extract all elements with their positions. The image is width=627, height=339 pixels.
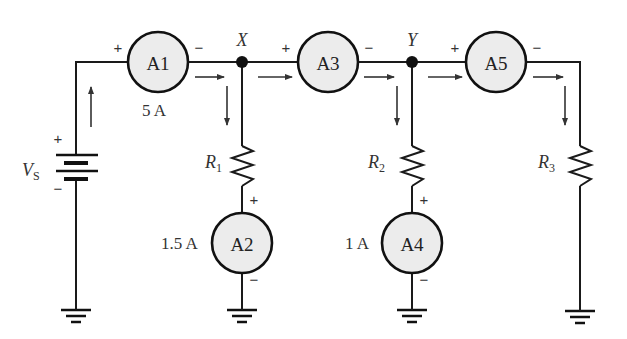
- circuit-diagram: + − VS R1 R2 R3 X: [0, 0, 627, 339]
- resistor-r2: R2: [367, 146, 423, 186]
- svg-text:A2: A2: [230, 234, 253, 255]
- ammeter-a2: A2 + − 1.5 A: [161, 191, 272, 288]
- wires: [76, 62, 580, 302]
- ammeter-a1: A1 + − 5 A: [114, 32, 204, 120]
- svg-text:+: +: [114, 39, 123, 56]
- node-y-label: Y: [407, 30, 419, 50]
- svg-text:R2: R2: [367, 152, 385, 175]
- voltage-source: + − VS: [22, 130, 98, 197]
- ground-icon: [565, 302, 595, 323]
- source-plus: +: [54, 130, 63, 147]
- source-minus: −: [54, 180, 63, 197]
- svg-text:R3: R3: [537, 152, 555, 175]
- svg-text:−: −: [365, 39, 374, 56]
- resistor-r3: R3: [537, 146, 591, 186]
- ground-icon: [227, 300, 257, 322]
- svg-text:+: +: [282, 39, 291, 56]
- svg-text:A5: A5: [484, 53, 507, 74]
- svg-text:−: −: [250, 271, 259, 288]
- svg-text:+: +: [250, 191, 259, 208]
- svg-text:A1: A1: [146, 53, 169, 74]
- svg-text:A3: A3: [316, 53, 339, 74]
- svg-text:−: −: [420, 271, 429, 288]
- resistor-r1: R1: [204, 146, 253, 186]
- svg-text:−: −: [533, 39, 542, 56]
- svg-text:−: −: [195, 39, 204, 56]
- svg-text:+: +: [420, 191, 429, 208]
- node-x: [236, 56, 248, 68]
- svg-text:A4: A4: [400, 234, 424, 255]
- a2-reading: 1.5 A: [161, 234, 199, 253]
- ground-icon: [397, 300, 427, 322]
- a4-reading: 1 A: [345, 234, 370, 253]
- a1-reading: 5 A: [142, 101, 167, 120]
- svg-text:+: +: [451, 39, 460, 56]
- source-label: VS: [22, 160, 40, 183]
- svg-text:R1: R1: [204, 152, 222, 175]
- ground-icon: [61, 300, 91, 322]
- node-x-label: X: [236, 30, 249, 50]
- node-y: [406, 56, 418, 68]
- ammeter-a4: A4 + − 1 A: [345, 191, 442, 288]
